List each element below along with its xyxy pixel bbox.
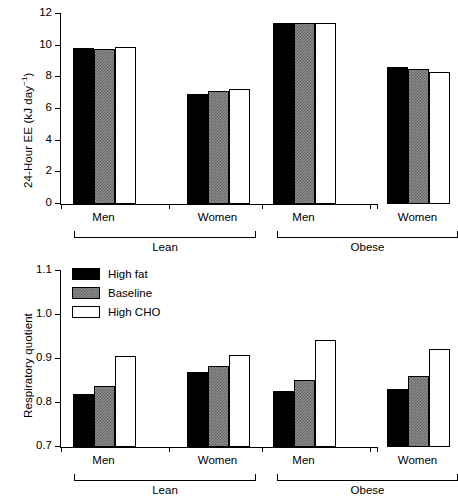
y-tick-label: 12 bbox=[39, 6, 52, 18]
y-tick-label: 2 bbox=[46, 164, 52, 176]
bar-women-lean-high-fat bbox=[187, 94, 208, 204]
y-tick: 4 bbox=[55, 140, 61, 141]
chart-panel-24hour-ee: 24-Hour EE (kJ day−1) 024681012 MenWomen… bbox=[0, 0, 394, 248]
y-tick: 10 bbox=[55, 45, 61, 46]
y-tick-label: 4 bbox=[46, 133, 52, 145]
bracket-lean bbox=[74, 474, 256, 481]
x-axis-group-label-obese-men: Men bbox=[264, 454, 344, 466]
x-axis-group-label-obese-men: Men bbox=[264, 211, 344, 223]
y-axis-label-top-main: 24-Hour EE (kJ day bbox=[22, 86, 34, 188]
legend-swatch-white bbox=[72, 306, 100, 318]
x-axis-group-label-lean-women: Women bbox=[178, 211, 258, 223]
y-tick: 0.9 bbox=[55, 358, 61, 359]
y-tick-label: 10 bbox=[39, 38, 52, 50]
bar-men-obese-high-cho bbox=[315, 23, 336, 204]
bracket-label-obese: Obese bbox=[318, 484, 418, 496]
x-tick bbox=[262, 204, 263, 209]
x-tick bbox=[61, 204, 62, 209]
y-tick-label: 1.0 bbox=[36, 307, 52, 319]
y-tick: 2 bbox=[55, 171, 61, 172]
x-axis-group-label-lean-men: Men bbox=[64, 454, 144, 466]
x-tick bbox=[377, 204, 378, 209]
plot-area-top: 024681012 bbox=[60, 14, 377, 205]
bar-women-lean-high-fat bbox=[187, 372, 208, 447]
bracket-obese bbox=[277, 474, 458, 481]
x-axis-group-label-lean-women: Women bbox=[178, 454, 258, 466]
y-axis-label-bottom: Respiratory quotient bbox=[22, 313, 34, 418]
bar-men-obese-high-fat bbox=[273, 23, 294, 204]
y-axis-label-top-tail: ) bbox=[22, 73, 34, 77]
bracket-obese bbox=[277, 231, 458, 238]
y-tick-label: 1.1 bbox=[36, 263, 52, 275]
x-tick bbox=[370, 204, 371, 209]
y-tick: 1.1 bbox=[55, 270, 61, 271]
bracket-label-lean: Lean bbox=[115, 484, 215, 496]
bar-women-obese-high-fat bbox=[387, 67, 408, 204]
x-axis-group-label-obese-women: Women bbox=[378, 454, 458, 466]
y-tick-label: 0.9 bbox=[36, 351, 52, 363]
bar-women-lean-high-cho bbox=[229, 89, 250, 204]
bar-women-obese-baseline bbox=[408, 376, 429, 447]
y-tick: 0.8 bbox=[55, 402, 61, 403]
bar-women-obese-baseline bbox=[408, 69, 429, 204]
y-tick-label: 8 bbox=[46, 69, 52, 81]
bar-men-obese-high-cho bbox=[315, 340, 336, 447]
bracket-lean bbox=[74, 231, 256, 238]
y-axis-label-top-superscript: −1 bbox=[20, 77, 29, 86]
y-tick: 8 bbox=[55, 76, 61, 77]
bar-men-obese-baseline bbox=[294, 380, 315, 447]
bar-men-lean-baseline bbox=[94, 386, 115, 447]
bar-women-obese-high-cho bbox=[429, 72, 450, 204]
x-tick bbox=[377, 447, 378, 452]
x-axis-group-label-obese-women: Women bbox=[378, 211, 458, 223]
legend-label: High fat bbox=[108, 266, 148, 283]
y-tick: 1.0 bbox=[55, 314, 61, 315]
bar-men-obese-baseline bbox=[294, 23, 315, 204]
y-tick-label: 0.7 bbox=[36, 439, 52, 451]
y-tick: 12 bbox=[55, 13, 61, 14]
y-tick-label: 6 bbox=[46, 101, 52, 113]
x-tick bbox=[61, 447, 62, 452]
bar-women-lean-high-cho bbox=[229, 355, 250, 447]
x-axis-group-label-lean-men: Men bbox=[64, 211, 144, 223]
y-axis-label-top: 24-Hour EE (kJ day−1) bbox=[20, 73, 34, 188]
y-tick-label: 0.8 bbox=[36, 395, 52, 407]
bar-women-obese-high-cho bbox=[429, 349, 450, 447]
chart-panel-respiratory-quotient: Respiratory quotient 0.70.80.91.01.1 Hig… bbox=[0, 243, 394, 487]
x-tick bbox=[262, 447, 263, 452]
bar-women-lean-baseline bbox=[208, 366, 229, 447]
bar-women-lean-baseline bbox=[208, 91, 229, 204]
bar-women-obese-high-fat bbox=[387, 389, 408, 447]
x-tick bbox=[169, 204, 170, 209]
bar-men-lean-high-fat bbox=[73, 394, 94, 447]
legend-swatch-black bbox=[72, 268, 100, 280]
legend-swatch-gray bbox=[72, 287, 100, 299]
bar-men-lean-high-cho bbox=[115, 47, 136, 204]
x-tick bbox=[370, 447, 371, 452]
legend-label: High CHO bbox=[108, 304, 160, 321]
bar-men-lean-high-fat bbox=[73, 48, 94, 204]
legend-label: Baseline bbox=[108, 285, 152, 302]
x-tick bbox=[169, 447, 170, 452]
y-tick: 6 bbox=[55, 108, 61, 109]
bar-men-obese-high-fat bbox=[273, 391, 294, 447]
y-tick-label: 0 bbox=[46, 196, 52, 208]
bar-men-lean-high-cho bbox=[115, 356, 136, 447]
bar-men-lean-baseline bbox=[94, 49, 115, 204]
